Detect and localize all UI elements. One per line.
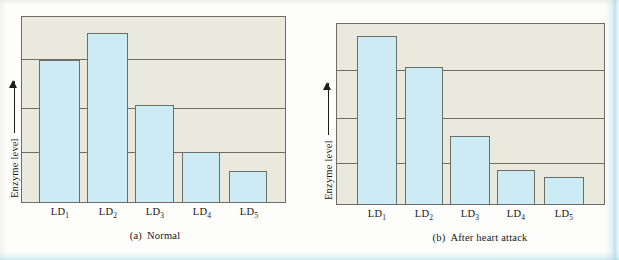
panel-b-caption-lead: (b) (433, 232, 446, 243)
panel-b-bar-LD1 (357, 36, 397, 205)
panel-b-y-axis-label-text: Enzyme level (323, 140, 334, 200)
panel-b-bar-LD2 (405, 67, 443, 205)
panel-b-caption: (b)After heart attack (380, 232, 580, 243)
panel-b-xtick-LD1: LD1 (353, 208, 401, 222)
up-arrow-icon (323, 83, 333, 135)
scan-artifact-top (0, 0, 619, 6)
panel-b-xtick-LD2: LD2 (400, 208, 448, 222)
panel-b-bar-LD4 (497, 170, 535, 205)
panel-b-xtick-LD4: LD4 (492, 208, 540, 222)
panel-b-bar-LD3 (450, 136, 490, 205)
panel-b-bar-LD5 (544, 177, 584, 205)
figure-lactate-dehydrogenase-isoenzymes: Enzyme level LD1 LD2 LD3 LD4 LD5 (0, 0, 619, 260)
panel-b-caption-text: After heart attack (450, 232, 527, 243)
scan-artifact-left (0, 0, 7, 260)
panel-b-xtick-LD3: LD3 (446, 208, 494, 222)
scan-artifact-right (605, 0, 619, 260)
panel-b-y-axis-label: Enzyme level (320, 50, 336, 200)
panel-b-xtick-LD5: LD5 (540, 208, 588, 222)
scan-artifact-bottom (0, 251, 619, 260)
panel-b-after-heart-attack: Enzyme level LD1 LD2 LD3 LD4 LD5 (0, 0, 619, 260)
